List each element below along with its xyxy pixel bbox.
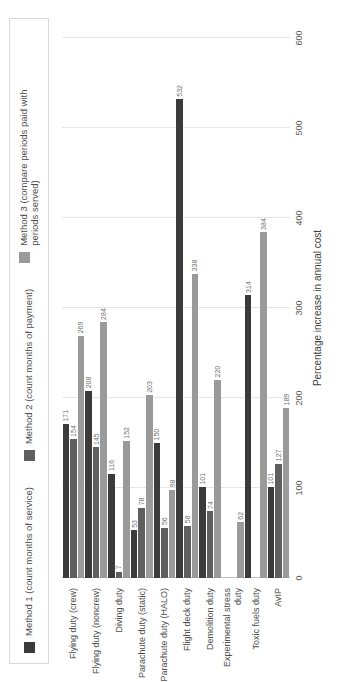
bar[interactable] — [63, 424, 70, 578]
bar-row: 208 — [85, 38, 92, 578]
bar-value-label: 145 — [93, 433, 100, 445]
bar[interactable] — [146, 395, 153, 578]
bar-value-label: 152 — [123, 427, 130, 439]
tick-label: 500 — [294, 120, 304, 135]
bar-group: 53258338 — [176, 38, 199, 578]
legend-item-2[interactable]: Method 2 (count months of payment) — [23, 289, 35, 461]
legend-label: Method 1 (count months of service) — [23, 487, 34, 636]
bar[interactable] — [176, 99, 183, 578]
bar-group: 5378203 — [130, 38, 153, 578]
bar-group: 1505698 — [153, 38, 176, 578]
bar[interactable] — [184, 526, 191, 578]
tick-label: 100 — [294, 480, 304, 495]
bar-value-label: 150 — [153, 429, 160, 441]
bar-row: 58 — [184, 38, 191, 578]
legend-label: Method 3 (compare periods paid with peri… — [18, 61, 40, 246]
bar[interactable] — [192, 274, 199, 578]
bar-row — [230, 38, 237, 578]
bar-value-label: 78 — [138, 498, 145, 506]
category-axis-labels: Flying duty (crew)Flying duty (noncrew)D… — [62, 582, 290, 682]
value-axis-title: Percentage increase in annual cost — [312, 38, 323, 578]
bar-row: 101 — [268, 38, 275, 578]
bar[interactable] — [260, 232, 267, 578]
bar[interactable] — [161, 528, 168, 578]
bar-group: 62 — [222, 38, 245, 578]
bar-row: 145 — [93, 38, 100, 578]
legend-swatch-icon — [19, 252, 30, 263]
bar-value-label: 269 — [77, 322, 84, 334]
bar-value-label: 101 — [199, 473, 206, 485]
bar-value-label: 7 — [115, 565, 122, 569]
bar-value-label: 53 — [131, 520, 138, 528]
bar[interactable] — [275, 464, 282, 578]
value-axis-ticks: 0100200300400500600 — [294, 38, 310, 578]
bar-value-label: 203 — [146, 381, 153, 393]
bar-row — [222, 38, 229, 578]
legend-item-1[interactable]: Method 1 (count months of service) — [23, 487, 35, 653]
legend-item-3[interactable]: Method 3 (compare periods paid with peri… — [18, 61, 40, 263]
bar-groups: 1711542692081452841167152537820315056985… — [62, 38, 290, 578]
bar-row: 189 — [283, 38, 290, 578]
bar-row: 171 — [63, 38, 70, 578]
bar-row: 154 — [70, 38, 77, 578]
bar-value-label: 171 — [62, 410, 69, 422]
bar-row: 532 — [176, 38, 183, 578]
bar-value-label: 154 — [70, 425, 77, 437]
bar[interactable] — [169, 490, 176, 578]
bar-value-label: 314 — [245, 281, 252, 293]
bar-value-label: 189 — [283, 394, 290, 406]
category-label-8: Toxic fuels duty — [244, 582, 267, 682]
bar-row: 150 — [154, 38, 161, 578]
bar[interactable] — [283, 408, 290, 578]
bar[interactable] — [131, 530, 138, 578]
bar-value-label: 74 — [207, 501, 214, 509]
legend-swatch-icon — [24, 450, 35, 461]
bar-value-label: 220 — [214, 366, 221, 378]
category-label-1: Flying duty (noncrew) — [85, 582, 108, 682]
bar[interactable] — [237, 522, 244, 578]
category-label-9: AvIP — [267, 582, 290, 682]
bar[interactable] — [123, 441, 130, 578]
legend-swatch-icon — [24, 642, 35, 653]
bar-row: 127 — [275, 38, 282, 578]
bar-row: 78 — [138, 38, 145, 578]
rotated-chart-canvas: Method 1 (count months of service)Method… — [0, 0, 344, 682]
bar[interactable] — [245, 295, 252, 578]
bar[interactable] — [70, 439, 77, 578]
category-label-4: Parachute duty (HALO) — [153, 582, 176, 682]
bar[interactable] — [116, 572, 123, 578]
bar-value-label: 116 — [108, 460, 115, 471]
bar[interactable] — [93, 448, 100, 579]
bar[interactable] — [268, 487, 275, 578]
bar[interactable] — [199, 487, 206, 578]
bar-value-label: 532 — [176, 85, 183, 97]
bar-row: 152 — [123, 38, 130, 578]
bar[interactable] — [100, 322, 107, 578]
legend-label: Method 2 (count months of payment) — [23, 289, 34, 444]
bar-row: 101 — [199, 38, 206, 578]
bar-value-label: 208 — [85, 377, 92, 389]
bar-row: 74 — [207, 38, 214, 578]
bar-group: 171154269 — [62, 38, 85, 578]
bar[interactable] — [214, 380, 221, 578]
tick-label: 600 — [294, 30, 304, 45]
bar[interactable] — [78, 336, 85, 578]
bar[interactable] — [154, 443, 161, 578]
bar-row: 7 — [116, 38, 123, 578]
bar-row: 269 — [78, 38, 85, 578]
bar-row: 203 — [146, 38, 153, 578]
bar[interactable] — [108, 474, 115, 578]
bar-row: 220 — [214, 38, 221, 578]
bar[interactable] — [207, 511, 214, 578]
plot-area: 1711542692081452841167152537820315056985… — [62, 38, 290, 578]
bar-value-label: 56 — [161, 517, 168, 525]
bar[interactable] — [138, 508, 145, 578]
bar-value-label: 62 — [237, 512, 244, 520]
category-label-2: Diving duty — [108, 582, 131, 682]
bar-group: 101127189 — [267, 38, 290, 578]
bar-row: 314 — [245, 38, 252, 578]
category-label-6: Demolition duty — [199, 582, 222, 682]
bar[interactable] — [85, 391, 92, 578]
bar-row: 98 — [169, 38, 176, 578]
bar-value-label: 127 — [275, 450, 282, 462]
